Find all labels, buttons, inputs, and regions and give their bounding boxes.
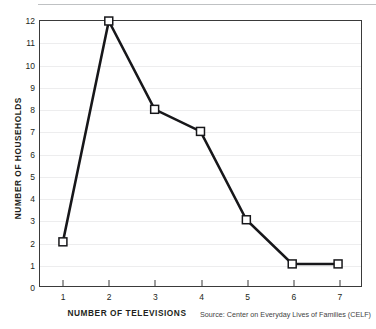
x-axis-title: NUMBER OF TELEVISIONS <box>39 309 215 317</box>
data-point-marker <box>151 105 159 113</box>
data-series-svg <box>40 21 361 286</box>
y-tick-label: 1 <box>30 262 35 271</box>
top-divider-rule <box>38 4 376 5</box>
y-tick-label: 8 <box>30 106 35 115</box>
y-tick-label: 9 <box>30 84 35 93</box>
y-tick-label: 4 <box>30 195 35 204</box>
x-tick-label: 6 <box>291 293 296 302</box>
source-note: Source: Center on Everyday Lives of Fami… <box>200 311 371 318</box>
data-point-marker <box>334 260 342 268</box>
x-tick-label: 1 <box>61 293 66 302</box>
y-tick-label: 5 <box>30 173 35 182</box>
plot-area: 0123456789101112 1234567 <box>39 20 362 287</box>
y-tick-label: 0 <box>30 284 35 293</box>
y-tick-label: 3 <box>30 217 35 226</box>
y-tick-label: 12 <box>26 17 35 26</box>
series-line <box>63 21 338 264</box>
data-point-marker <box>288 260 296 268</box>
x-tick-label: 7 <box>338 293 343 302</box>
x-tick-label: 2 <box>107 293 112 302</box>
x-tick-label: 5 <box>245 293 250 302</box>
chart-figure: NUMBER OF HOUSEHOLDS 0123456789101112 12… <box>0 0 376 329</box>
y-tick-label: 10 <box>26 61 35 70</box>
data-point-marker <box>59 238 67 246</box>
data-point-marker <box>197 127 205 135</box>
y-tick-label: 7 <box>30 128 35 137</box>
y-axis-title: NUMBER OF HOUSEHOLDS <box>14 88 22 228</box>
y-tick-label: 2 <box>30 239 35 248</box>
y-tick-label: 6 <box>30 150 35 159</box>
x-tick-label: 3 <box>153 293 158 302</box>
x-tick-label: 4 <box>199 293 204 302</box>
data-point-marker <box>242 216 250 224</box>
data-point-marker <box>105 17 113 25</box>
y-tick-label: 11 <box>26 39 35 48</box>
